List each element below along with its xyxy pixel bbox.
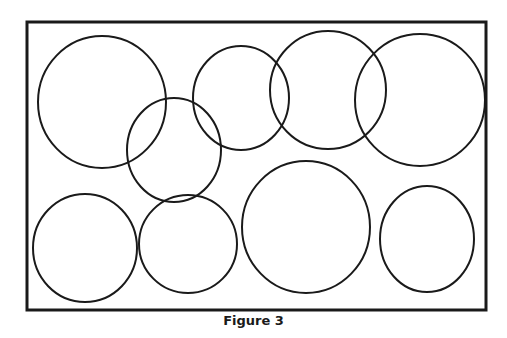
circle-3 [193,46,289,150]
circle-2 [127,98,221,202]
circle-8 [242,161,370,293]
circle-5 [355,34,485,166]
circle-1 [38,36,166,168]
circle-4 [270,31,386,149]
figure-caption: Figure 3 [0,313,507,328]
circle-group [33,31,485,302]
circle-9 [380,186,474,292]
circle-7 [139,195,237,293]
circle-6 [33,194,137,302]
circles-figure [0,0,507,338]
